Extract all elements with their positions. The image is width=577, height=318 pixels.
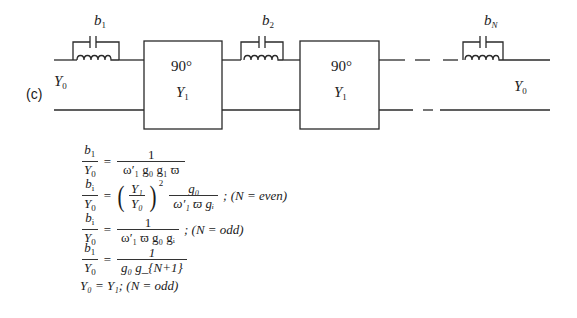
- resonator-label-b1: b1: [94, 12, 106, 30]
- resonator-label-b2: b2: [262, 12, 274, 30]
- source-admittance-label: Y0: [54, 73, 67, 91]
- inverter-1-admittance: Y1: [176, 84, 189, 102]
- condition-odd: ; (N = odd): [184, 222, 244, 238]
- inverter-2-phase: 90°: [331, 58, 352, 75]
- inverter-2-admittance: Y1: [334, 84, 347, 102]
- resonator-label-bN: bN: [484, 12, 498, 30]
- design-equations: b1 Y0 = 1 ω′₁ g₀ g₁ ϖ bi Y0 = ( Y₁ Y₀ ) …: [80, 147, 287, 297]
- resonator-bN: [463, 36, 503, 60]
- rhs-fraction: 1 ω′₁ g₀ g₁ ϖ: [117, 148, 185, 176]
- panel-label: (c): [26, 86, 42, 102]
- resonator-b1: [73, 36, 119, 60]
- equation-4: b1 Y0 = 1 g₀ g_{N+1}: [80, 245, 287, 275]
- inverter-1-phase: 90°: [171, 58, 192, 75]
- condition-even: ; (N = even): [223, 188, 287, 204]
- equation-3: bi Y0 = 1 ω′₁ ϖ g₀ gᵢ ; (N = odd): [80, 215, 287, 245]
- equation-2: bi Y0 = ( Y₁ Y₀ ) 2 g₀ ω′₁ ϖ gᵢ ; (N = e…: [80, 177, 287, 215]
- admittance-ratio: Y₁ Y₀: [129, 182, 145, 210]
- equation-1: b1 Y0 = 1 ω′₁ g₀ g₁ ϖ: [80, 147, 287, 177]
- equation-5: Y₀ = Y₁; (N = odd): [80, 275, 287, 297]
- load-admittance-label: Y0: [514, 78, 527, 96]
- resonator-b2: [241, 36, 283, 60]
